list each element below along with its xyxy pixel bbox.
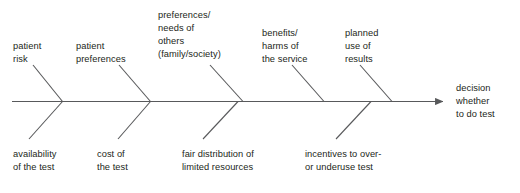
cause-label-benefits-harms-of-the-service: benefits/ harms of the service (262, 27, 308, 66)
cause-label-cost-of-the-test: cost of the test (97, 148, 128, 174)
cause-label-incentives-to-over-or-underuse-test: incentives to over- or underuse test (305, 148, 381, 174)
branch-line-top-4 (292, 65, 324, 102)
cause-label-patient-risk: patient risk (13, 40, 41, 66)
branch-line-top-2 (119, 65, 151, 102)
effect-label-decision-whether-to-do-test: decision whether to do test (456, 82, 495, 121)
cause-label-fair-distribution-of-limited-resources: fair distribution of limited resources (182, 148, 254, 174)
fishbone-diagram: patient risk patient preferences prefere… (0, 0, 520, 193)
cause-label-patient-preferences: patient preferences (76, 40, 126, 66)
fishbone-lines (0, 0, 520, 193)
branch-line-top-3 (210, 65, 243, 102)
cause-label-preferences-needs-of-others: preferences/ needs of others (family/soc… (158, 9, 221, 61)
cause-label-planned-use-of-results: planned use of results (345, 27, 378, 66)
branch-line-bottom-3 (203, 102, 238, 140)
branch-line-bottom-2 (118, 102, 151, 140)
branch-line-bottom-4 (336, 102, 371, 140)
branch-line-bottom-1 (29, 102, 63, 140)
cause-label-availability-of-the-test: availability of the test (13, 148, 57, 174)
branch-line-top-1 (33, 65, 63, 102)
branch-line-top-5 (360, 65, 392, 102)
